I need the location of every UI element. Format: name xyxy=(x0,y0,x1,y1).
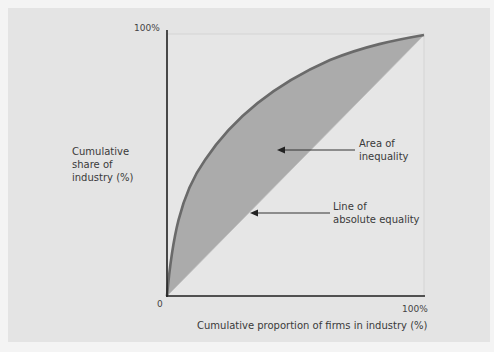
annotation-line: absolute equality xyxy=(333,213,420,226)
y-axis-label-line: industry (%) xyxy=(72,171,133,184)
annotation-line: Area of xyxy=(359,137,408,150)
line-of-equality-label: Line of absolute equality xyxy=(333,200,420,226)
y-axis-max-tick: 100% xyxy=(134,22,160,35)
y-axis-label: Cumulative share of industry (%) xyxy=(72,145,133,184)
y-axis-label-line: Cumulative xyxy=(72,145,133,158)
y-axis-label-line: share of xyxy=(72,158,133,171)
annotation-line: inequality xyxy=(359,150,408,163)
x-axis-label: Cumulative proportion of firms in indust… xyxy=(197,319,427,332)
x-axis-max-tick: 100% xyxy=(402,303,428,316)
origin-tick: 0 xyxy=(157,298,163,311)
area-of-inequality-label: Area of inequality xyxy=(359,137,408,163)
annotation-line: Line of xyxy=(333,200,420,213)
